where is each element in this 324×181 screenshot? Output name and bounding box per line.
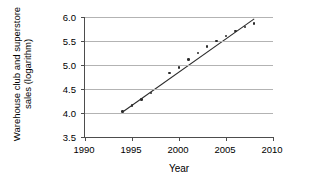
x-tick-label-1995: 1995 [111, 144, 151, 155]
gridline-y-4.5 [85, 89, 273, 90]
y-tick-mark-6.0 [81, 17, 85, 18]
data-point [131, 104, 134, 107]
y-axis-tick-labels: 3.54.04.55.05.56.0 [0, 17, 84, 137]
trend-line [85, 17, 273, 137]
x-tick-mark-2010 [273, 137, 274, 141]
y-tick-label-5.5: 5.5 [46, 36, 76, 47]
gridline-y-4.0 [85, 113, 273, 114]
y-tick-mark-4.5 [81, 89, 85, 90]
data-point [234, 30, 237, 33]
x-axis-tick-labels: 19901995200020052010 [84, 138, 272, 158]
y-tick-mark-4.0 [81, 113, 85, 114]
gridline-y-6.0 [85, 17, 273, 18]
gridline-y-5.5 [85, 41, 273, 42]
data-point [121, 110, 124, 113]
y-tick-label-4.0: 4.0 [46, 108, 76, 119]
y-tick-mark-5.5 [81, 41, 85, 42]
x-axis-title: Year [84, 163, 274, 174]
y-tick-label-4.5: 4.5 [46, 84, 76, 95]
x-tick-label-2005: 2005 [205, 144, 245, 155]
y-tick-label-6.0: 6.0 [46, 12, 76, 23]
chart-container: Warehouse club and superstore sales (log… [0, 0, 324, 181]
x-tick-label-2000: 2000 [158, 144, 198, 155]
data-point [187, 58, 190, 61]
plot-area [84, 17, 273, 138]
y-tick-mark-5.0 [81, 65, 85, 66]
y-tick-label-5.0: 5.0 [46, 60, 76, 71]
y-tick-label-3.5: 3.5 [46, 132, 76, 143]
x-tick-label-1990: 1990 [64, 144, 104, 155]
data-point [140, 98, 143, 101]
x-tick-label-2010: 2010 [252, 144, 292, 155]
